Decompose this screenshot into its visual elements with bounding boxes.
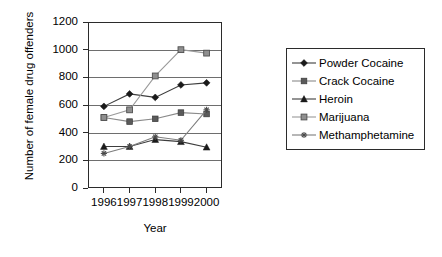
x-tick-mark	[180, 188, 181, 193]
y-tick-label: 1000	[20, 44, 78, 55]
legend-marker-icon	[291, 92, 317, 106]
y-tick-label: 600	[20, 99, 78, 110]
legend-marker-icon	[291, 56, 317, 70]
y-tick-mark	[83, 22, 88, 23]
y-tick-label: 1200	[20, 16, 78, 27]
legend-marker-icon	[291, 128, 317, 142]
data-point-marker	[301, 114, 307, 120]
data-point-marker	[301, 60, 308, 67]
legend-marker-icon	[291, 74, 317, 88]
data-point-marker	[301, 78, 307, 84]
x-axis-title: Year	[88, 222, 222, 235]
legend-item-marijuana: Marijuana	[291, 108, 420, 126]
legend-item-label: Powder Cocaine	[317, 56, 403, 70]
legend-item-heroin: Heroin	[291, 90, 420, 108]
y-tick-mark	[83, 105, 88, 106]
x-tick-mark	[206, 188, 207, 193]
legend-item-powder-cocaine: Powder Cocaine	[291, 54, 420, 72]
legend-item-label: Methamphetamine	[317, 128, 414, 142]
legend-marker-icon	[291, 110, 317, 124]
data-point-marker	[301, 132, 307, 138]
legend-item-label: Crack Cocaine	[317, 74, 394, 88]
legend-item-methamphetamine: Methamphetamine	[291, 126, 420, 144]
x-tick-mark	[155, 188, 156, 193]
legend-item-label: Marijuana	[317, 110, 370, 124]
y-tick-mark	[83, 188, 88, 189]
plot-area	[88, 22, 222, 188]
y-tick-label: 200	[20, 154, 78, 165]
chart-figure: Number of female drug offenders 02004006…	[0, 0, 442, 257]
gridline	[89, 50, 221, 51]
x-tick-label: 2000	[184, 196, 230, 208]
y-tick-mark	[83, 160, 88, 161]
legend: Powder CocaineCrack CocaineHeroinMarijua…	[286, 48, 425, 150]
x-tick-mark	[103, 188, 104, 193]
gridline	[89, 105, 221, 106]
legend-item-crack-cocaine: Crack Cocaine	[291, 72, 420, 90]
y-tick-mark	[83, 77, 88, 78]
y-tick-mark	[83, 132, 88, 133]
y-tick-label: 400	[20, 127, 78, 138]
gridline	[89, 160, 221, 161]
y-tick-mark	[83, 49, 88, 50]
y-tick-label: 0	[20, 182, 78, 193]
x-tick-mark	[129, 188, 130, 193]
legend-item-label: Heroin	[317, 92, 353, 106]
gridline	[89, 133, 221, 134]
y-tick-label: 800	[20, 71, 78, 82]
gridline	[89, 77, 221, 78]
